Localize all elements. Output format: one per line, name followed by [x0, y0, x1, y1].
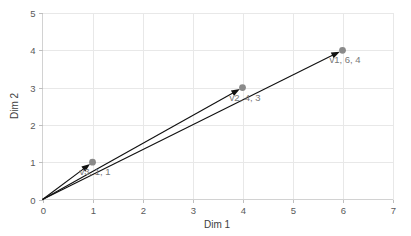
y-tick-label: 3 — [30, 83, 35, 94]
point-label-text: v2, 4, 3 — [230, 92, 261, 103]
y-tick-label: 4 — [30, 45, 35, 56]
y-tick-label: 5 — [30, 8, 35, 19]
x-tick-label: 0 — [41, 205, 46, 216]
y-tick-label: 1 — [30, 157, 35, 168]
vector-scatter-plot: 01234567 012345 v1, 6, 4v2, 4, 3v3, 1, 1… — [0, 0, 411, 236]
point-marker — [339, 47, 346, 54]
y-tick-label: 0 — [30, 195, 35, 206]
x-tick-label: 7 — [391, 205, 396, 216]
point-marker — [239, 84, 246, 91]
y-axis-title: Dim 2 — [9, 93, 20, 120]
x-tick-label: 3 — [191, 205, 196, 216]
y-tick-label: 2 — [30, 120, 35, 131]
x-tick-label: 6 — [341, 205, 346, 216]
x-tick-label: 4 — [241, 205, 246, 216]
x-tick-label: 1 — [91, 205, 96, 216]
x-tick-label: 5 — [291, 205, 296, 216]
point-label-text: v1, 6, 4 — [330, 54, 361, 65]
chart-screenshot: 01234567 012345 v1, 6, 4v2, 4, 3v3, 1, 1… — [0, 0, 411, 236]
point-marker — [89, 159, 96, 166]
point-label-text: v3, 1, 1 — [80, 166, 111, 177]
x-axis-title: Dim 1 — [204, 219, 231, 230]
x-tick-label: 2 — [141, 205, 146, 216]
